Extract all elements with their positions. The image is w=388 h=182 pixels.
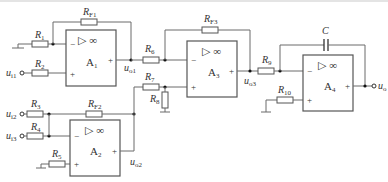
ground-symbol-r5 bbox=[36, 164, 46, 168]
a1-out-pin: + bbox=[108, 55, 113, 65]
input-terminal-ui1 bbox=[20, 71, 24, 75]
a1-minus-pin: − bbox=[70, 39, 75, 49]
a4-out-pin: + bbox=[345, 81, 350, 91]
label-r7: R7 bbox=[144, 71, 155, 84]
a2-minus-pin: − bbox=[74, 131, 79, 141]
label-c: C bbox=[322, 25, 329, 36]
stage-a1 bbox=[12, 19, 140, 86]
label-r2: R2 bbox=[34, 58, 45, 71]
a3-plus-pin: + bbox=[191, 82, 196, 92]
label-r8: R8 bbox=[149, 93, 160, 106]
resistor-r10 bbox=[277, 97, 293, 103]
resistor-rf2 bbox=[86, 111, 102, 117]
resistor-r7 bbox=[143, 84, 159, 90]
a3-out-pin: + bbox=[229, 66, 234, 76]
resistor-r3 bbox=[27, 111, 43, 117]
label-r6: R6 bbox=[144, 43, 155, 56]
resistor-rf1 bbox=[81, 19, 97, 25]
opamp-a1-symbol: ▷ ∞ bbox=[78, 34, 97, 46]
a4-minus-pin: − bbox=[307, 66, 312, 76]
resistor-r1 bbox=[32, 41, 48, 47]
label-uo1: uo1 bbox=[124, 62, 137, 75]
output-terminal-uo bbox=[372, 84, 376, 88]
label-r9: R9 bbox=[261, 54, 272, 67]
opamp-labels: ▷ ∞ A1 − + + ▷ ∞ A2 − + + ▷ ∞ A3 − + + ▷… bbox=[70, 34, 350, 169]
circuit-diagram: ▷ ∞ A1 − + + ▷ ∞ A2 − + + ▷ ∞ A3 − + + ▷… bbox=[0, 0, 388, 182]
label-uo3: uo3 bbox=[244, 75, 257, 88]
ground-symbol-r1 bbox=[12, 44, 24, 48]
junction-dot bbox=[248, 69, 251, 72]
resistor-rf3 bbox=[202, 27, 218, 33]
label-r3: R3 bbox=[30, 98, 41, 111]
opamp-a4-symbol: ▷ ∞ bbox=[318, 59, 337, 71]
capacitor-c bbox=[324, 39, 328, 51]
opamp-a3-symbol: ▷ ∞ bbox=[202, 45, 221, 57]
label-ui3: ui3 bbox=[6, 130, 17, 143]
a2-plus-pin: + bbox=[74, 159, 79, 169]
label-ui1: ui1 bbox=[6, 67, 17, 80]
label-rf1: RF1 bbox=[82, 6, 97, 19]
label-rf3: RF3 bbox=[203, 13, 218, 26]
a3-minus-pin: − bbox=[191, 55, 196, 65]
label-uo2: uo2 bbox=[130, 156, 143, 169]
label-rf2: RF2 bbox=[87, 98, 102, 111]
input-terminal-ui3 bbox=[20, 134, 24, 138]
a1-plus-pin: + bbox=[70, 69, 75, 79]
resistor-r8 bbox=[162, 92, 168, 108]
a2-out-pin: + bbox=[112, 146, 117, 156]
label-r1: R1 bbox=[34, 29, 45, 42]
label-r5: R5 bbox=[51, 148, 62, 161]
resistor-r9 bbox=[258, 68, 274, 74]
resistor-r5 bbox=[49, 161, 65, 167]
label-uo: uo bbox=[378, 80, 387, 93]
stage-a4 bbox=[258, 39, 376, 112]
a4-plus-pin: + bbox=[307, 95, 312, 105]
label-ui2: ui2 bbox=[6, 108, 17, 121]
label-r4: R4 bbox=[30, 121, 41, 134]
resistor-r6 bbox=[143, 57, 159, 63]
resistor-r2 bbox=[32, 70, 48, 76]
label-r10: R10 bbox=[277, 84, 292, 97]
junction-dot bbox=[363, 84, 366, 87]
opamp-a2-symbol: ▷ ∞ bbox=[85, 124, 104, 136]
input-terminal-ui2 bbox=[20, 112, 24, 116]
